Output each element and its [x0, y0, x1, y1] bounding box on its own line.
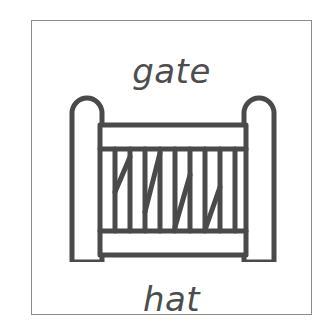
gate-illustration	[66, 87, 280, 262]
bottom-word-label: hat	[32, 279, 311, 319]
gate-icon	[66, 87, 280, 262]
flashcard-page: gate	[0, 0, 331, 336]
top-word-label: gate	[32, 51, 311, 91]
card-frame: gate	[31, 20, 312, 315]
